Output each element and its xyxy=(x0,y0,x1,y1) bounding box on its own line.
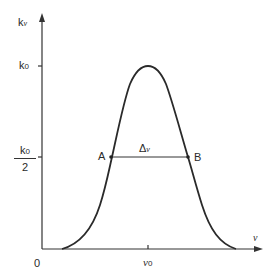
point-b xyxy=(186,155,190,159)
half-max-numerator: k0 xyxy=(20,144,30,156)
k0-label: k0 xyxy=(19,60,29,71)
point-a-label: A xyxy=(98,151,105,162)
width-label-nu: ν xyxy=(146,145,150,154)
point-a xyxy=(109,155,113,159)
point-b-label: B xyxy=(194,152,201,163)
nu0-label-sub: 0 xyxy=(148,259,152,268)
diagram-canvas xyxy=(0,0,277,280)
half-max-denominator: 2 xyxy=(22,161,28,173)
half-max-label: k0 2 xyxy=(14,145,36,173)
y-axis-label: kν xyxy=(18,17,27,28)
nu0-label: ν0 xyxy=(143,257,152,268)
y-axis-arrow-icon xyxy=(39,13,45,22)
fraction-bar xyxy=(14,158,36,159)
k0-label-sub: 0 xyxy=(25,62,29,71)
x-axis-arrow-icon xyxy=(254,246,263,252)
y-axis-label-sub: ν xyxy=(24,19,28,28)
origin-label: 0 xyxy=(34,258,40,269)
width-label: Δν xyxy=(139,143,150,154)
half-max-numerator-sub: 0 xyxy=(26,147,30,156)
x-axis-label: ν xyxy=(253,233,257,243)
